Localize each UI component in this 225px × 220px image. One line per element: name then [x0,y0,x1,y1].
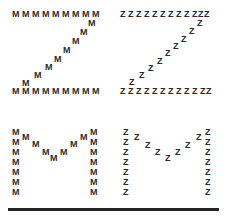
local-letter-z: Z [145,141,151,150]
local-letter-z: Z [196,133,202,142]
local-letter-m: M [42,87,50,96]
local-letter-m: M [82,87,90,96]
local-letter-z: Z [152,10,158,19]
local-letter-m: M [90,178,98,187]
local-letter-z: Z [160,10,166,19]
local-letter-z: Z [152,87,158,96]
local-letter-z: Z [123,188,129,197]
local-letter-z: Z [123,158,129,167]
local-letter-m: M [34,71,42,80]
local-letter-z: Z [123,148,129,157]
local-letter-m: M [42,10,50,19]
local-letter-z: Z [192,87,198,96]
local-letter-m: M [12,178,20,187]
local-letter-z: Z [148,64,154,73]
local-letter-m: M [52,10,60,19]
local-letter-m: M [12,10,20,19]
local-letter-m: M [90,188,98,197]
local-letter-z: Z [200,87,206,96]
local-letter-z: Z [123,178,129,187]
local-letter-z: Z [206,87,212,96]
local-letter-z: Z [165,154,171,163]
local-letter-m: M [32,140,40,149]
local-letter-m: M [72,10,80,19]
local-letter-z: Z [165,49,171,58]
local-letter-m: M [72,37,80,46]
local-letter-z: Z [205,188,211,197]
local-letter-m: M [90,138,98,147]
local-letter-z: Z [205,148,211,157]
local-letter-z: Z [155,148,161,157]
local-letter-m: M [22,10,30,19]
local-letter-z: Z [139,71,145,80]
local-letter-z: Z [197,19,203,28]
local-letter-z: Z [136,10,142,19]
local-letter-m: M [22,133,30,142]
local-letter-z: Z [205,158,211,167]
local-letter-z: Z [168,10,174,19]
local-letter-m: M [62,87,70,96]
local-letter-m: M [12,138,20,147]
local-letter-z: Z [185,141,191,150]
stimulus-figure-bottom-right: ZZZZZZZZZZZZZZZZZZZZZ [113,110,225,220]
local-letter-z: Z [184,10,190,19]
local-letter-m: M [50,154,58,163]
local-letter-m: M [88,19,96,28]
local-letter-z: Z [123,128,129,137]
local-letter-z: Z [144,87,150,96]
local-letter-z: Z [189,27,195,36]
stimulus-figure-bottom-left: MMMMMMMMMMMMMMMMMMMMM [0,110,112,220]
local-letter-m: M [70,140,78,149]
local-letter-z: Z [128,10,134,19]
local-letter-z: Z [123,168,129,177]
stimulus-canvas: MMMMMMMMMMMMMMMMMMMMMMMMMM ZZZZZZZZZZZZZ… [0,0,225,220]
local-letter-z: Z [205,138,211,147]
local-letter-m: M [90,128,98,137]
local-letter-z: Z [157,57,163,66]
local-letter-m: M [52,87,60,96]
local-letter-z: Z [204,10,210,19]
baseline-rule [8,208,219,211]
local-letter-z: Z [173,42,179,51]
local-letter-z: Z [160,87,166,96]
stimulus-figure-top-left: MMMMMMMMMMMMMMMMMMMMMMMMMM [0,0,112,110]
local-letter-z: Z [168,87,174,96]
local-letter-z: Z [175,148,181,157]
local-letter-z: Z [184,87,190,96]
local-letter-z: Z [205,168,211,177]
local-letter-m: M [12,158,20,167]
local-letter-m: M [63,46,71,55]
local-letter-m: M [32,10,40,19]
local-letter-z: Z [205,178,211,187]
local-letter-z: Z [136,87,142,96]
local-letter-z: Z [128,87,134,96]
local-letter-m: M [60,148,68,157]
local-letter-z: Z [144,10,150,19]
local-letter-m: M [90,158,98,167]
local-letter-m: M [45,63,53,72]
local-letter-m: M [72,87,80,96]
local-letter-m: M [12,87,20,96]
local-letter-z: Z [181,35,187,44]
local-letter-z: Z [120,10,126,19]
local-letter-m: M [22,87,30,96]
local-letter-m: M [12,128,20,137]
local-letter-m: M [80,133,88,142]
local-letter-z: Z [176,10,182,19]
local-letter-z: Z [123,138,129,147]
local-letter-m: M [54,55,62,64]
local-letter-m: M [12,168,20,177]
local-letter-m: M [12,148,20,157]
local-letter-m: M [32,87,40,96]
local-letter-m: M [80,28,88,37]
local-letter-z: Z [134,133,140,142]
stimulus-figure-top-right: ZZZZZZZZZZZZZZZZZZZZZZZZZZZZZZZZZ [113,0,225,110]
local-letter-m: M [92,87,100,96]
local-letter-z: Z [120,87,126,96]
local-letter-m: M [62,10,70,19]
local-letter-m: M [90,148,98,157]
local-letter-m: M [90,168,98,177]
local-letter-m: M [42,148,50,157]
local-letter-z: Z [176,87,182,96]
local-letter-z: Z [205,128,211,137]
